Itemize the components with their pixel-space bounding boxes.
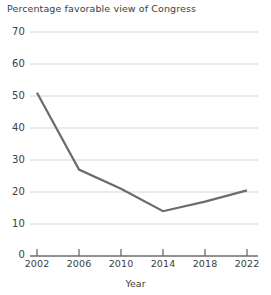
gridlines <box>30 32 258 224</box>
chart-plot <box>0 0 271 295</box>
chart-container: Percentage favorable view of Congress 70… <box>0 0 271 295</box>
data-series-line <box>37 93 247 211</box>
x-axis <box>30 249 258 256</box>
